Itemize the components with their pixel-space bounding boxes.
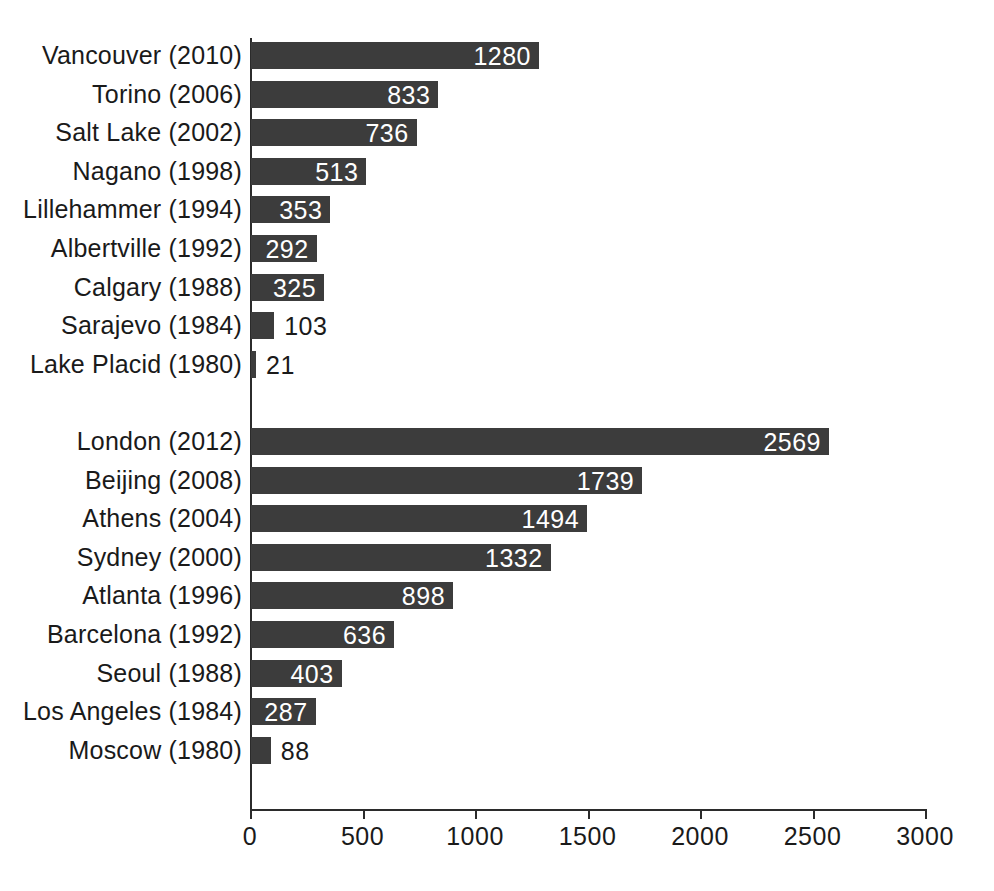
value-axis-line bbox=[250, 38, 252, 810]
bar-row: Los Angeles (1984)287 bbox=[0, 698, 994, 725]
bar-value-label: 1332 bbox=[251, 544, 543, 571]
bar-value-label: 636 bbox=[251, 621, 386, 648]
bar-row: Sydney (2000)1332 bbox=[0, 544, 994, 571]
bar-category-label: Calgary (1988) bbox=[74, 270, 242, 304]
bar-row: Athens (2004)1494 bbox=[0, 505, 994, 532]
bar-row: Moscow (1980)88 bbox=[0, 737, 994, 764]
x-axis-tick-mark bbox=[363, 809, 365, 819]
bar-category-label: Lake Placid (1980) bbox=[30, 347, 242, 381]
x-axis-tick-mark bbox=[250, 809, 252, 819]
bar-value-label: 898 bbox=[251, 582, 445, 609]
bar-row: Salt Lake (2002)736 bbox=[0, 119, 994, 146]
bar-category-label: Athens (2004) bbox=[82, 501, 242, 535]
bar-row: Beijing (2008)1739 bbox=[0, 467, 994, 494]
x-axis-tick-label: 1500 bbox=[559, 822, 617, 851]
bar-category-label: Barcelona (1992) bbox=[47, 617, 242, 651]
bar-category-label: Sarajevo (1984) bbox=[61, 308, 242, 342]
bar bbox=[251, 312, 274, 339]
bar-value-label: 353 bbox=[251, 196, 322, 223]
bar-value-label: 325 bbox=[251, 274, 316, 301]
x-axis-tick-mark bbox=[813, 809, 815, 819]
bar-value-label: 403 bbox=[251, 660, 334, 687]
bar-row: Torino (2006)833 bbox=[0, 81, 994, 108]
bar bbox=[251, 737, 271, 764]
bar-row: Vancouver (2010)1280 bbox=[0, 42, 994, 69]
bar-value-label: 292 bbox=[251, 235, 309, 262]
bar-category-label: Albertville (1992) bbox=[51, 231, 242, 265]
bar-value-label: 1280 bbox=[251, 42, 531, 69]
bar-row: Sarajevo (1984)103 bbox=[0, 312, 994, 339]
bar-category-label: Sydney (2000) bbox=[77, 540, 242, 574]
bar-value-label: 1739 bbox=[251, 467, 634, 494]
x-axis-tick-mark bbox=[475, 809, 477, 819]
bar-row: London (2012)2569 bbox=[0, 428, 994, 455]
bar-row: Calgary (1988)325 bbox=[0, 274, 994, 301]
bar-value-label: 833 bbox=[251, 81, 430, 108]
bar bbox=[251, 351, 256, 378]
bar-row: Atlanta (1996)898 bbox=[0, 582, 994, 609]
bar-category-label: Nagano (1998) bbox=[73, 154, 242, 188]
x-axis-tick-label: 500 bbox=[341, 822, 384, 851]
bar-category-label: Atlanta (1996) bbox=[82, 578, 242, 612]
bar-category-label: Torino (2006) bbox=[92, 77, 242, 111]
x-axis-tick-label: 3000 bbox=[896, 822, 954, 851]
bar-row: Lake Placid (1980)21 bbox=[0, 351, 994, 378]
bar-chart: Vancouver (2010)1280Torino (2006)833Salt… bbox=[0, 0, 994, 891]
bar-row: Barcelona (1992)636 bbox=[0, 621, 994, 648]
bar-category-label: Moscow (1980) bbox=[69, 733, 243, 767]
bar-category-label: Los Angeles (1984) bbox=[23, 694, 242, 728]
bar-category-label: Seoul (1988) bbox=[96, 656, 242, 690]
x-axis-tick-label: 1000 bbox=[446, 822, 504, 851]
bar-category-label: Salt Lake (2002) bbox=[55, 115, 242, 149]
bar-value-label: 103 bbox=[284, 312, 327, 339]
bar-value-label: 21 bbox=[266, 351, 295, 378]
x-axis-tick-mark bbox=[700, 809, 702, 819]
x-axis-tick-label: 0 bbox=[243, 822, 257, 851]
bar-value-label: 1494 bbox=[251, 505, 579, 532]
bar-value-label: 736 bbox=[251, 119, 409, 146]
bar-row: Nagano (1998)513 bbox=[0, 158, 994, 185]
x-axis-tick-label: 2500 bbox=[784, 822, 842, 851]
bar-row: Lillehammer (1994)353 bbox=[0, 196, 994, 223]
bar-category-label: London (2012) bbox=[77, 424, 242, 458]
bar-value-label: 513 bbox=[251, 158, 358, 185]
bar-value-label: 88 bbox=[281, 737, 310, 764]
bar-category-label: Beijing (2008) bbox=[85, 463, 242, 497]
bar-category-label: Lillehammer (1994) bbox=[23, 192, 242, 226]
x-axis-tick-label: 2000 bbox=[671, 822, 729, 851]
x-axis-tick-mark bbox=[925, 809, 927, 819]
bar-row: Albertville (1992)292 bbox=[0, 235, 994, 262]
x-axis-tick-mark bbox=[588, 809, 590, 819]
bar-category-label: Vancouver (2010) bbox=[42, 38, 242, 72]
bar-value-label: 287 bbox=[251, 698, 308, 725]
bar-row: Seoul (1988)403 bbox=[0, 660, 994, 687]
bar-value-label: 2569 bbox=[251, 428, 821, 455]
